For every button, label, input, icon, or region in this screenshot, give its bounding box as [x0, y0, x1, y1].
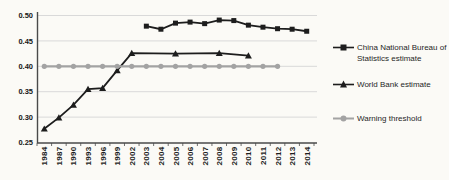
legend-label-nbs: China National Bureau of Statistics esti…: [357, 42, 449, 64]
legend-label-worldbank: World Bank estimate: [357, 79, 449, 90]
circle-point-marker: [231, 64, 236, 69]
circle-point-marker: [246, 64, 251, 69]
square-point-marker: [188, 20, 193, 25]
x-tick-label: 2011: [259, 146, 268, 165]
square-point-marker: [202, 21, 207, 26]
triangle-marker-icon: [333, 80, 354, 89]
x-tick-label: 2003: [142, 146, 151, 165]
x-tick-label: 2007: [201, 146, 210, 165]
circle-point-marker: [71, 64, 76, 69]
circle-point-marker: [42, 64, 47, 69]
circle-point-marker: [144, 64, 149, 69]
y-tick-label: 0.50: [18, 11, 33, 20]
x-tick-label: 2002: [128, 146, 137, 165]
series-worldbank: [41, 50, 252, 132]
square-point-marker: [158, 27, 163, 32]
gini-chart-panel: 0.250.300.350.400.450.501984198719901993…: [0, 0, 449, 180]
legend-item-threshold: Warning threshold: [333, 113, 449, 124]
chart-legend: China National Bureau of Statistics esti…: [333, 0, 447, 180]
x-tick-label: 2012: [274, 146, 283, 165]
circle-point-marker: [173, 64, 178, 69]
x-tick-label: 2006: [186, 146, 195, 165]
square-marker-icon: [333, 43, 354, 52]
y-tick-label: 0.40: [18, 62, 33, 71]
legend-label-threshold: Warning threshold: [357, 113, 449, 124]
square-point-marker: [260, 25, 265, 30]
square-point-marker: [290, 27, 295, 32]
square-point-marker: [231, 18, 236, 23]
y-tick-label: 0.35: [18, 87, 33, 96]
circle-point-marker: [202, 64, 207, 69]
circle-point-marker: [187, 64, 192, 69]
x-tick-label: 1990: [69, 146, 78, 165]
x-tick-label: 1993: [84, 146, 93, 165]
series-nbs: [144, 18, 309, 34]
x-tick-label: 2005: [172, 146, 181, 165]
x-tick-label: 2014: [303, 146, 312, 165]
x-tick-label: 2008: [215, 146, 224, 165]
x-tick-label: 1996: [99, 146, 108, 165]
x-tick-label: 2009: [230, 146, 239, 165]
x-tick-label: 2004: [157, 146, 166, 165]
y-tick-label: 0.45: [18, 37, 33, 46]
circle-point-marker: [217, 64, 222, 69]
y-tick-label: 0.30: [18, 113, 33, 122]
circle-point-marker: [129, 64, 134, 69]
y-tick-label: 0.25: [18, 138, 33, 147]
square-point-marker: [246, 23, 251, 28]
legend-item-worldbank: World Bank estimate: [333, 79, 449, 90]
circle-point-marker: [85, 64, 90, 69]
circle-marker-icon: [333, 114, 354, 123]
x-tick-label: 1984: [40, 146, 49, 165]
circle-point-marker: [100, 64, 105, 69]
circle-point-marker: [56, 64, 61, 69]
series-threshold: [42, 64, 280, 69]
x-tick-label: 2010: [244, 146, 253, 165]
square-point-marker: [217, 18, 222, 23]
legend-item-nbs: China National Bureau of Statistics esti…: [333, 42, 449, 64]
x-tick-label: 1999: [113, 146, 122, 165]
series-line: [146, 20, 306, 31]
circle-point-marker: [275, 64, 280, 69]
x-tick-label: 1987: [55, 146, 64, 165]
circle-point-marker: [158, 64, 163, 69]
square-point-marker: [144, 24, 149, 29]
circle-point-marker: [260, 64, 265, 69]
circle-point-marker: [115, 64, 120, 69]
square-point-marker: [275, 26, 280, 31]
square-point-marker: [173, 21, 178, 26]
x-tick-label: 2013: [288, 146, 297, 165]
square-point-marker: [304, 29, 309, 34]
